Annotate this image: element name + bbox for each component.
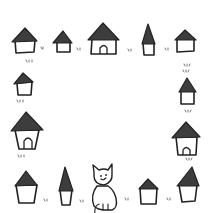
house-body (181, 91, 194, 104)
house-body (15, 130, 39, 149)
illustration-canvas (0, 0, 210, 213)
house-body (143, 43, 154, 55)
house-body (60, 190, 72, 205)
house-body (16, 185, 37, 203)
cat-eye-left (100, 175, 102, 177)
house-body (177, 39, 194, 52)
house-body (179, 185, 197, 202)
house-body (176, 137, 197, 155)
house-body (140, 188, 157, 204)
house-body (91, 39, 116, 54)
cat-eye-right (105, 174, 107, 176)
